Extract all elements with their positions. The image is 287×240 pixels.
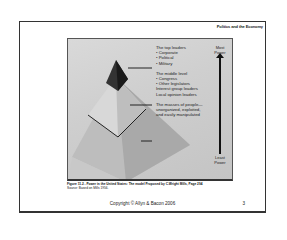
masses-line-3: and easily manipulated [156,112,203,117]
top-item-military: • Military [156,61,203,66]
masses-group: The masses of people— unorganized, explo… [156,102,203,118]
slide-frame: Politics and the Economy The top leaders… [19,21,266,213]
least-power-label: Least Power [209,156,231,165]
copyright-footer: Copyright © Allyn & Bacon 2006 [20,201,265,206]
least-power-word-2: Power [209,161,231,166]
figure-panel: The top leaders • Corporate • Political … [67,38,233,181]
page-number: 3 [242,201,245,206]
middle-item-opinion-leaders: Local opinion leaders [156,92,203,97]
pyramid-labels: The top leaders • Corporate • Political … [156,45,203,120]
power-scale-arrow [219,57,221,154]
figure-caption: Figure 11.2 - Power in the United States… [67,183,202,191]
slide-header-title: Politics and the Economy [217,24,263,29]
top-leaders-group: The top leaders • Corporate • Political … [156,45,203,66]
middle-level-group: The middle level • Congress • Other legi… [156,71,203,97]
caption-source: Source: Based on Mills 1956. [67,187,202,191]
middle-item-interest-groups: Interest group leaders [156,86,203,91]
